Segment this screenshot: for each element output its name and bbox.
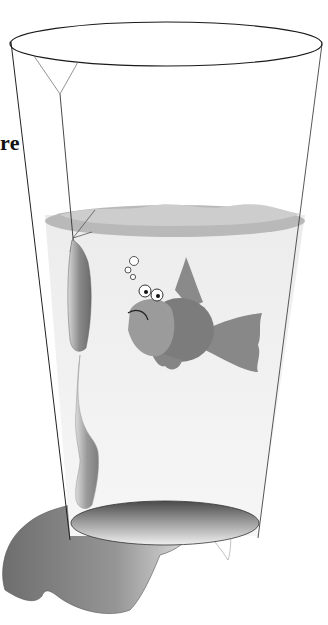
- glass-rim: [10, 22, 322, 66]
- glass-fish-illustration: [0, 0, 328, 625]
- glass-base: [71, 501, 259, 545]
